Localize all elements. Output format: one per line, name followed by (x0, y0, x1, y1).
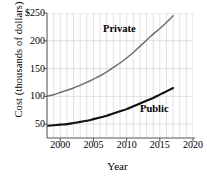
chart-figure: Cost (thousands of dollars) 50100150200$… (0, 0, 207, 182)
series-label-public: Public (140, 103, 169, 114)
series-label-private: Private (103, 23, 136, 34)
